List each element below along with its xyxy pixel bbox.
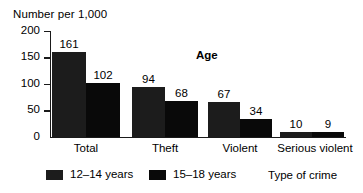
legend-item-15-18: 15–18 years bbox=[149, 168, 236, 181]
bar-value: 10 bbox=[290, 118, 303, 131]
bar-value: 161 bbox=[59, 38, 78, 51]
bar-group-serious-violent: 10 9 bbox=[280, 31, 344, 137]
legend-item-12-14: 12–14 years bbox=[46, 168, 133, 181]
bar-value: 94 bbox=[142, 73, 155, 86]
y-axis-title: Number per 1,000 bbox=[13, 8, 107, 21]
x-axis-title: Type of crime bbox=[268, 169, 337, 182]
bar-value: 9 bbox=[325, 118, 331, 131]
bar-value: 68 bbox=[175, 87, 188, 100]
bar-serious-violent-15-18: 9 bbox=[312, 132, 344, 137]
y-tick-label-150: 150 bbox=[21, 50, 40, 63]
plot-area: 161 102 94 68 67 34 bbox=[50, 31, 345, 137]
y-tick-label-200: 200 bbox=[21, 24, 40, 37]
bar-violent-12-14: 67 bbox=[208, 102, 240, 138]
y-tick-label-100: 100 bbox=[21, 77, 40, 90]
x-category-label-theft: Theft bbox=[132, 141, 198, 155]
bar-group-theft: 94 68 bbox=[132, 31, 198, 137]
bar-chart: Number per 1,000 200 150 100 50 0 161 10… bbox=[0, 0, 363, 193]
x-category-label-serious-violent: Serious violent bbox=[276, 141, 354, 155]
bar-theft-12-14: 94 bbox=[132, 87, 165, 137]
bar-total-12-14: 161 bbox=[52, 52, 86, 137]
bar-theft-15-18: 68 bbox=[165, 101, 198, 137]
bar-violent-15-18: 34 bbox=[240, 119, 272, 137]
bar-value: 67 bbox=[218, 88, 231, 101]
y-tick-label-0: 0 bbox=[34, 130, 40, 143]
bar-group-total: 161 102 bbox=[52, 31, 120, 137]
bar-group-violent: 67 34 bbox=[208, 31, 272, 137]
legend-swatch-icon bbox=[46, 170, 63, 180]
legend-label: 12–14 years bbox=[70, 168, 133, 181]
bar-value: 102 bbox=[93, 69, 112, 82]
bar-serious-violent-12-14: 10 bbox=[280, 132, 312, 137]
y-tick-label-50: 50 bbox=[27, 103, 40, 116]
x-category-label-violent: Violent bbox=[208, 141, 272, 155]
age-annotation: Age bbox=[196, 49, 218, 62]
legend-label: 15–18 years bbox=[173, 168, 236, 181]
legend-swatch-icon bbox=[149, 170, 166, 180]
bar-value: 34 bbox=[250, 105, 263, 118]
x-category-label-total: Total bbox=[52, 141, 120, 155]
bar-total-15-18: 102 bbox=[86, 83, 120, 137]
